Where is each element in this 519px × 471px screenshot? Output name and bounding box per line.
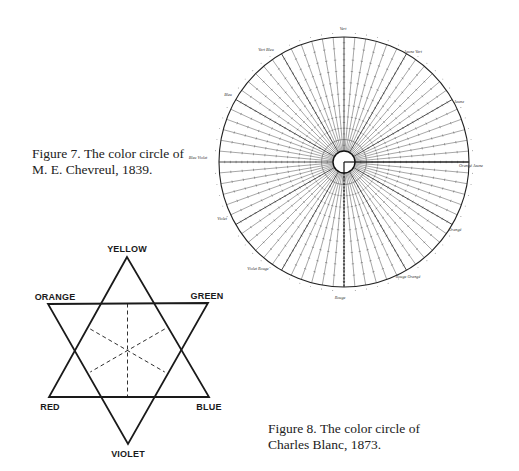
rim-mark <box>355 290 356 291</box>
rim-mark <box>465 206 466 207</box>
spoke-tick <box>408 207 409 209</box>
rim-mark <box>435 253 436 254</box>
spoke-tick <box>288 200 289 202</box>
rim-mark <box>245 244 246 245</box>
spoke-tick <box>395 87 397 88</box>
spoke-tick <box>402 78 404 79</box>
rim-mark <box>261 260 262 261</box>
rim-mark <box>245 79 246 80</box>
spoke-tick <box>390 129 391 131</box>
spoke-tick <box>389 96 391 97</box>
rim-mark <box>270 267 271 268</box>
star-label-green: GREEN <box>190 291 223 301</box>
wheel-hue-label: Jaune <box>454 99 464 104</box>
spoke-tick <box>399 200 400 202</box>
figures-canvas: VertVert BleuJaune VertBleuJauneBleu Vio… <box>0 0 519 471</box>
spoke-tick <box>371 142 372 144</box>
rim-mark <box>261 63 262 64</box>
rim-mark <box>398 45 399 46</box>
rim-mark <box>426 63 427 64</box>
rim-mark <box>472 173 473 174</box>
spoke-tick <box>418 109 419 111</box>
spoke-tick <box>395 236 397 237</box>
spoke-tick <box>311 115 313 116</box>
rim-mark <box>299 283 300 284</box>
star-label-orange: ORANGE <box>35 292 76 302</box>
rim-mark <box>332 290 333 291</box>
rim-mark <box>460 216 461 217</box>
spoke-tick <box>278 207 279 209</box>
rim-mark <box>418 56 419 57</box>
spoke-tick <box>306 187 307 189</box>
star-label-yellow: YELLOW <box>107 244 147 254</box>
rim-mark <box>460 107 461 108</box>
rim-mark <box>435 70 436 71</box>
spoke-tick <box>291 87 293 88</box>
rim-mark <box>299 40 300 41</box>
spoke-tick <box>362 189 364 190</box>
spoke-tick <box>250 96 251 98</box>
wheel-hue-label: Rouge <box>334 295 346 300</box>
spoke-tick <box>260 220 261 222</box>
rim-mark <box>289 278 290 279</box>
rim-mark <box>215 173 216 174</box>
spoke-tick <box>250 226 251 228</box>
wheel-hue-label: Vert Bleu <box>258 47 273 52</box>
spoke-tick <box>436 96 437 98</box>
spoke-tick <box>306 135 307 137</box>
spoke-tick <box>278 254 280 255</box>
spoke-tick <box>291 236 293 237</box>
rim-mark <box>442 79 443 80</box>
spoke-tick <box>284 78 286 79</box>
rim-mark <box>217 139 218 140</box>
wheel-hue-label: Bleu Violet <box>189 155 208 160</box>
spoke-tick <box>297 96 299 97</box>
spoke-tick <box>362 134 364 135</box>
star-label-red: RED <box>40 402 60 412</box>
spoke-tick <box>316 180 317 182</box>
spoke-tick <box>317 198 319 199</box>
spoke-tick <box>278 115 279 117</box>
rim-mark <box>227 107 228 108</box>
rim-mark <box>449 236 450 237</box>
spoke-tick <box>402 245 404 246</box>
rim-mark <box>217 184 218 185</box>
rim-mark <box>310 286 311 287</box>
spoke-tick <box>297 226 299 227</box>
rim-mark <box>449 88 450 89</box>
spoke-tick <box>297 193 298 195</box>
spoke-tick <box>369 124 371 125</box>
rim-mark <box>468 128 469 129</box>
wheel-hue-label: Violet Rouge <box>247 266 269 271</box>
spoke-tick <box>317 124 319 125</box>
rim-mark <box>270 56 271 57</box>
spoke-tick <box>408 68 410 69</box>
spoke-tick <box>316 142 317 144</box>
rim-mark <box>238 236 239 237</box>
spoke-tick <box>297 129 298 131</box>
spoke-tick <box>375 115 377 116</box>
rim-mark <box>388 283 389 284</box>
spoke-tick <box>382 106 384 107</box>
spoke-tick <box>284 245 286 246</box>
wheel-hue-label: Bleu <box>224 92 232 97</box>
rim-mark <box>442 244 443 245</box>
spoke-tick <box>380 135 381 137</box>
rim-mark <box>468 195 469 196</box>
rim-mark <box>222 117 223 118</box>
rim-mark <box>310 37 311 38</box>
wheel-hue-label: Orangé Jaune <box>459 163 483 168</box>
spoke-tick <box>427 102 428 104</box>
spoke-tick <box>408 254 410 255</box>
spoke-tick <box>408 115 409 117</box>
rim-mark <box>388 40 389 41</box>
spoke-tick <box>382 217 384 218</box>
chevreul-color-wheel: VertVert BleuJaune VertBleuJauneBleu Vio… <box>189 26 483 300</box>
rim-mark <box>355 33 356 34</box>
rim-mark <box>321 289 322 290</box>
secondary-triangle <box>48 303 208 444</box>
blanc-color-star: YELLOWORANGEGREENREDBLUEVIOLET <box>35 244 224 459</box>
spoke-tick <box>288 122 289 124</box>
spoke-tick <box>389 226 391 227</box>
star-label-blue: BLUE <box>196 402 221 412</box>
